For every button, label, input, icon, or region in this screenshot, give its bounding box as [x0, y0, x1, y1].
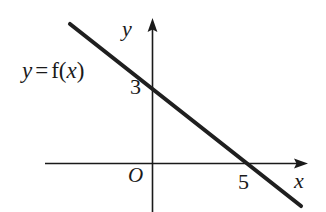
y-axis-label: y [122, 18, 132, 40]
y-intercept-label: 3 [130, 76, 141, 98]
function-label-y: y [22, 58, 32, 83]
function-line [70, 24, 301, 206]
x-intercept-label: 5 [238, 171, 249, 193]
function-label-arg: x [67, 58, 77, 83]
x-axis-label: x [294, 170, 304, 192]
graph-figure: y=f(x) y x O 3 5 [0, 0, 326, 212]
origin-label: O [128, 165, 143, 186]
function-label-close: ) [77, 58, 85, 83]
function-label: y=f(x) [22, 59, 84, 82]
function-label-fname: f( [51, 58, 66, 83]
function-label-equals: = [32, 58, 51, 83]
coordinate-plane [0, 0, 326, 212]
